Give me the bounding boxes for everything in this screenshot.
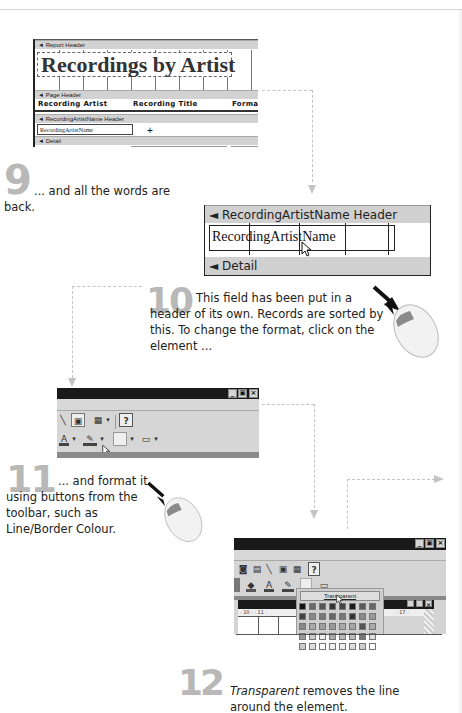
bring-front-icon[interactable]: ▣ — [278, 562, 288, 576]
dropdown-icon[interactable]: ▾ — [129, 432, 135, 446]
detail-band: ◄ Detail — [35, 136, 258, 145]
column-label-format[interactable]: Forma — [232, 100, 258, 108]
transparent-term: Transparent — [230, 684, 299, 698]
colour-swatch[interactable] — [319, 603, 326, 610]
colour-swatch[interactable] — [299, 623, 306, 630]
colour-swatch[interactable] — [359, 623, 366, 630]
line-tool-icon[interactable]: ╲ — [59, 413, 67, 427]
artist-name-field[interactable]: RecordingArtistName — [37, 124, 133, 135]
bring-front-icon[interactable]: ▣ — [71, 413, 85, 427]
colour-swatch[interactable] — [329, 603, 336, 610]
toolbar-screenshot: _ ▣ × ╲ ▣ ▦ ▾ ? A ▾ ✎ ▾ ▾ ▭ ▾ — [57, 388, 259, 458]
colour-swatch[interactable] — [359, 603, 366, 610]
column-label-artist[interactable]: Recording Artist — [38, 100, 107, 108]
colour-swatch[interactable] — [369, 643, 376, 650]
close-button[interactable]: × — [425, 600, 432, 607]
restore-button[interactable]: ▣ — [238, 389, 247, 398]
band-marker-icon: ◄ — [209, 259, 218, 273]
colour-swatch[interactable] — [349, 643, 356, 650]
group-header-band: ◄ RecordingArtistName Header — [35, 114, 258, 123]
minimize-button[interactable]: _ — [228, 389, 237, 398]
grid-line — [251, 50, 252, 90]
field-list-icon[interactable]: ▦ — [292, 562, 302, 576]
colour-swatch[interactable] — [299, 603, 306, 610]
colour-swatch[interactable] — [339, 613, 346, 620]
format-field[interactable]: Format — [231, 146, 258, 147]
arrow-cursor-icon — [336, 590, 344, 609]
restore-button[interactable]: ▣ — [425, 539, 434, 548]
toolbar-separator — [115, 415, 116, 429]
step-11-caption: ... and format it using buttons from the… — [6, 473, 166, 537]
colour-swatch[interactable] — [349, 603, 356, 610]
colour-swatch[interactable] — [319, 643, 326, 650]
close-button[interactable]: × — [249, 389, 258, 398]
colour-swatch[interactable] — [369, 603, 376, 610]
group-header-band: ◄ RecordingArtistName Header — [205, 205, 430, 223]
fill-colour-icon[interactable]: ◆ — [246, 578, 256, 592]
connector-line — [312, 90, 313, 182]
special-effect-icon[interactable]: ▭ — [139, 432, 153, 446]
report-header-band: ◄ Report Header — [35, 40, 258, 49]
colour-swatch[interactable] — [309, 623, 316, 630]
line-border-colour-icon[interactable]: ✎ — [282, 578, 294, 592]
colour-swatch[interactable] — [329, 613, 336, 620]
colour-swatch[interactable] — [299, 613, 306, 620]
colour-swatch[interactable] — [309, 613, 316, 620]
minimize-button[interactable]: _ — [415, 539, 424, 548]
colour-swatch[interactable] — [329, 643, 336, 650]
step-9-caption: ... and all the words are back. — [4, 183, 194, 215]
detail-band: ◄ Detail — [205, 257, 430, 276]
step-12-caption-line1: Transparent removes the line around the … — [230, 683, 430, 713]
colour-swatch[interactable] — [329, 623, 336, 630]
colour-swatch[interactable] — [359, 643, 366, 650]
close-button[interactable]: × — [436, 539, 445, 548]
colour-swatch[interactable] — [359, 613, 366, 620]
properties-icon[interactable]: ▦ — [91, 413, 105, 427]
colour-swatch[interactable] — [349, 613, 356, 620]
design-grid — [238, 616, 298, 634]
window-body — [57, 452, 259, 458]
maximize-button[interactable] — [416, 600, 423, 607]
mouse-click-illustration — [145, 478, 205, 548]
line-tool-icon[interactable]: ╲ — [264, 562, 274, 576]
help-icon[interactable]: ? — [119, 413, 133, 427]
colour-swatch[interactable] — [339, 643, 346, 650]
arrow-down-icon — [308, 185, 316, 194]
artist-name-field[interactable]: RecordingArtistName — [212, 227, 336, 247]
colour-swatch[interactable] — [309, 643, 316, 650]
step-number-12: 12 — [178, 665, 222, 701]
border-width-icon[interactable] — [113, 432, 127, 446]
window-titlebar: _ ▣ × — [57, 388, 259, 399]
window-titlebar: _ ▣ × — [234, 538, 446, 550]
colour-swatch[interactable] — [369, 623, 376, 630]
line-border-colour-icon[interactable]: ✎ — [83, 432, 97, 446]
colour-swatch[interactable] — [299, 643, 306, 650]
colour-swatch[interactable] — [349, 623, 356, 630]
colour-swatch[interactable] — [339, 623, 346, 630]
print-icon[interactable]: ◙ — [238, 562, 248, 576]
column-label-title[interactable]: Recording Title — [133, 100, 198, 108]
font-color-icon[interactable]: A — [264, 578, 274, 592]
minimize-button[interactable]: _ — [407, 600, 414, 607]
mouse-click-illustration — [370, 285, 442, 361]
font-color-icon[interactable]: A — [59, 432, 69, 446]
dropdown-icon[interactable]: ▾ — [71, 432, 77, 446]
help-icon[interactable]: ? — [308, 562, 320, 576]
move-cursor-icon: + — [147, 126, 153, 136]
menu-bar — [57, 399, 259, 411]
colour-swatch[interactable] — [309, 603, 316, 610]
colour-swatch[interactable] — [319, 613, 326, 620]
dropdown-icon[interactable]: ▾ — [153, 432, 159, 446]
page-header-row: Recording Artist Recording Title Forma — [35, 99, 258, 112]
grid-line — [345, 223, 346, 255]
dropdown-icon[interactable]: ▾ — [105, 413, 111, 427]
page-edge-shadow — [457, 10, 462, 713]
recording-title-field[interactable]: RecordingTitle — [131, 146, 227, 147]
colour-swatch[interactable] — [319, 623, 326, 630]
vertical-scrollbar[interactable] — [424, 609, 434, 634]
colour-swatch[interactable] — [369, 613, 376, 620]
report-title-label[interactable]: Recordings by Artist — [37, 52, 232, 77]
band-marker-icon: ◄ — [209, 208, 218, 222]
connector-line — [72, 286, 142, 287]
properties-icon[interactable]: ▤ — [252, 562, 262, 576]
